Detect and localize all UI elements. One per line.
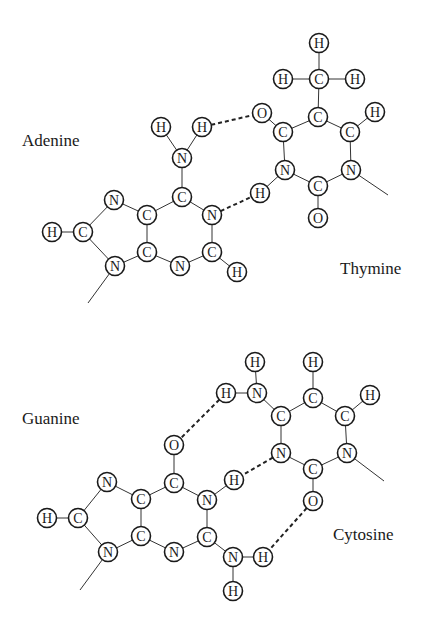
atom-c: C [309,108,328,127]
atom-h: H [304,353,323,372]
atom-symbol: N [103,545,113,560]
atom-symbol: N [169,545,179,560]
atom-n: N [272,444,291,463]
atom-n: N [203,206,222,225]
atom-h: H [228,263,247,282]
atom-symbol: C [142,208,151,223]
atom-symbol: H [365,388,375,403]
atom-symbol: C [169,476,178,491]
atom-symbol: N [110,259,120,274]
atom-symbol: C [78,225,87,240]
atom-c: C [173,188,192,207]
atom-symbol: N [276,446,286,461]
atom-n: N [224,548,243,567]
atom-c: C [138,243,157,262]
label-guanine: Guanine [22,409,80,428]
atom-symbol: N [228,550,238,565]
hydrogen-bond-dashed [211,115,252,125]
atom-h: H [251,184,270,203]
atom-h: H [38,509,57,528]
atom-h: H [43,223,62,242]
atom-symbol: N [175,259,185,274]
atom-symbol: C [314,72,323,87]
atom-symbol: C [136,492,145,507]
atom-symbol: C [278,125,287,140]
atom-symbol: N [346,163,356,178]
atom-symbol: H [221,386,231,401]
atom-symbol: O [313,211,323,226]
atom-h: H [224,582,243,601]
atom-h: H [310,34,329,53]
atom-symbol: C [207,245,216,260]
atom-c: C [310,70,329,89]
base-pair-diagram: HHNCNCNHCCCNNHHHCHOCHCCNNCHOHHHNCHCCNNCO… [0,0,421,621]
atom-c: C [165,474,184,493]
atom-symbol: N [342,446,352,461]
atom-symbol: H [308,355,318,370]
atom-n: N [173,149,192,168]
hydrogen-bond-dashed [221,197,252,211]
hydrogen-bond-dashed [181,400,220,439]
atom-c: C [132,490,151,509]
atom-symbol: C [340,409,349,424]
hydrogen-bond-dashed [242,458,273,476]
atom-symbol: H [156,120,166,135]
atom-symbol: N [102,475,112,490]
label-adenine: Adenine [22,131,80,150]
atom-symbol: H [255,186,265,201]
atom-o: O [165,436,184,455]
atom-symbol: H [197,120,207,135]
atom-symbol: C [313,110,322,125]
atom-symbol: H [250,355,260,370]
label-cytosine: Cytosine [333,525,393,544]
atom-c: C [304,460,323,479]
atom-symbol: H [42,511,52,526]
atom-symbol: N [252,386,262,401]
atom-symbol: C [345,125,354,140]
atom-symbol: H [232,265,242,280]
atom-n: N [171,257,190,276]
hydrogen-bonds-layer [181,115,307,550]
atom-h: H [225,471,244,490]
atom-c: C [336,407,355,426]
atom-h: H [217,384,236,403]
atom-symbol: O [169,438,179,453]
atom-symbol: N [207,208,217,223]
atom-h: H [274,70,293,89]
hydrogen-bond-dashed [269,508,306,550]
atom-n: N [342,161,361,180]
atom-symbol: C [177,190,186,205]
atom-symbol: H [370,105,380,120]
atom-o: O [304,492,323,511]
atom-c: C [309,177,328,196]
atom-c: C [198,528,217,547]
atom-c: C [341,123,360,142]
atom-symbol: H [47,225,57,240]
atom-symbol: C [276,409,285,424]
atom-symbol: O [308,494,318,509]
atom-symbol: O [257,106,267,121]
atom-c: C [138,206,157,225]
atom-c: C [74,223,93,242]
atom-h: H [254,548,273,567]
atom-symbol: C [313,179,322,194]
atom-o: O [309,209,328,228]
atom-n: N [99,543,118,562]
atom-c: C [274,123,293,142]
atom-symbol: C [308,462,317,477]
atom-symbol: N [280,163,290,178]
atom-symbol: H [258,550,268,565]
atom-n: N [165,543,184,562]
atom-n: N [98,473,117,492]
atom-symbol: C [142,245,151,260]
atom-symbol: H [350,72,360,87]
atom-symbol: N [202,493,212,508]
atom-symbol: H [314,36,324,51]
atom-symbol: H [278,72,288,87]
atom-symbol: H [229,473,239,488]
atom-h: H [346,70,365,89]
bonds-layer [47,43,388,591]
atom-symbol: C [73,511,82,526]
atom-symbol: C [136,529,145,544]
atom-c: C [272,407,291,426]
